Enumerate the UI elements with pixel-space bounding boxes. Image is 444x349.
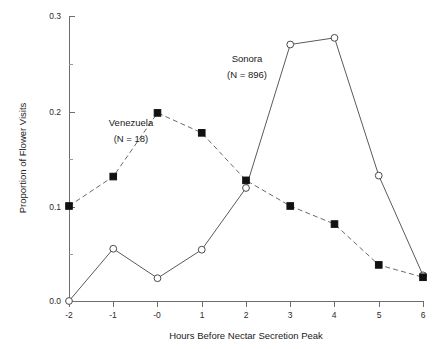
sonora-point-5 (287, 41, 294, 48)
sonora-label: Sonora (232, 53, 263, 64)
y-tick-label-2: 0.2 (49, 107, 61, 117)
x-tick-label-5: 3 (288, 310, 293, 320)
sonora-point-6 (331, 34, 338, 41)
annotation-venezuela: Venezuela (N = 18) (109, 117, 154, 144)
x-tick-label-1: -1 (109, 310, 117, 320)
sonora-point-1 (110, 245, 117, 252)
sonora-point-2 (154, 275, 161, 282)
y-tick-label-3: 0.3 (49, 11, 61, 21)
x-tick-label-3: 1 (200, 310, 205, 320)
venezuela-point-6 (331, 221, 338, 228)
x-axis-title: Hours Before Nectar Secretion Peak (169, 330, 323, 341)
y-tick-label-1: 0.1 (49, 202, 61, 212)
scatter-line-plot: 0.3 0.2 0.1 0.0 -2 -1 -0 1 2 3 4 5 6 (0, 0, 444, 349)
venezuela-point-1 (110, 173, 117, 180)
y-axis-title: Proportion of Flower Visits (17, 102, 28, 213)
x-tick-label-4: 2 (244, 310, 249, 320)
venezuela-point-3 (198, 130, 205, 137)
y-tick-group: 0.3 0.2 0.1 0.0 (49, 11, 75, 306)
venezuela-point-4 (243, 177, 250, 184)
chart-figure: 0.3 0.2 0.1 0.0 -2 -1 -0 1 2 3 4 5 6 (0, 0, 444, 349)
sonora-point-3 (198, 246, 205, 253)
x-tick-label-7: 5 (377, 310, 382, 320)
venezuela-point-8 (420, 274, 427, 281)
venezuela-label: Venezuela (109, 117, 154, 128)
x-tick-label-2: -0 (153, 310, 161, 320)
venezuela-point-2 (154, 110, 161, 117)
venezuela-point-0 (66, 203, 73, 210)
sonora-point-0 (66, 298, 73, 305)
x-tick-label-6: 4 (332, 310, 337, 320)
venezuela-point-7 (375, 262, 382, 269)
sonora-point-7 (375, 172, 382, 179)
x-tick-label-0: -2 (65, 310, 73, 320)
venezuela-point-5 (287, 203, 294, 210)
x-tick-group: -2 -1 -0 1 2 3 4 5 6 (65, 301, 425, 320)
venezuela-sample-size: (N = 18) (114, 133, 149, 144)
x-tick-label-8: 6 (421, 310, 426, 320)
annotation-sonora: Sonora (N = 896) (227, 53, 267, 80)
sonora-sample-size: (N = 896) (227, 69, 267, 80)
y-tick-label-0: 0.0 (49, 296, 61, 306)
sonora-point-4 (243, 185, 250, 192)
